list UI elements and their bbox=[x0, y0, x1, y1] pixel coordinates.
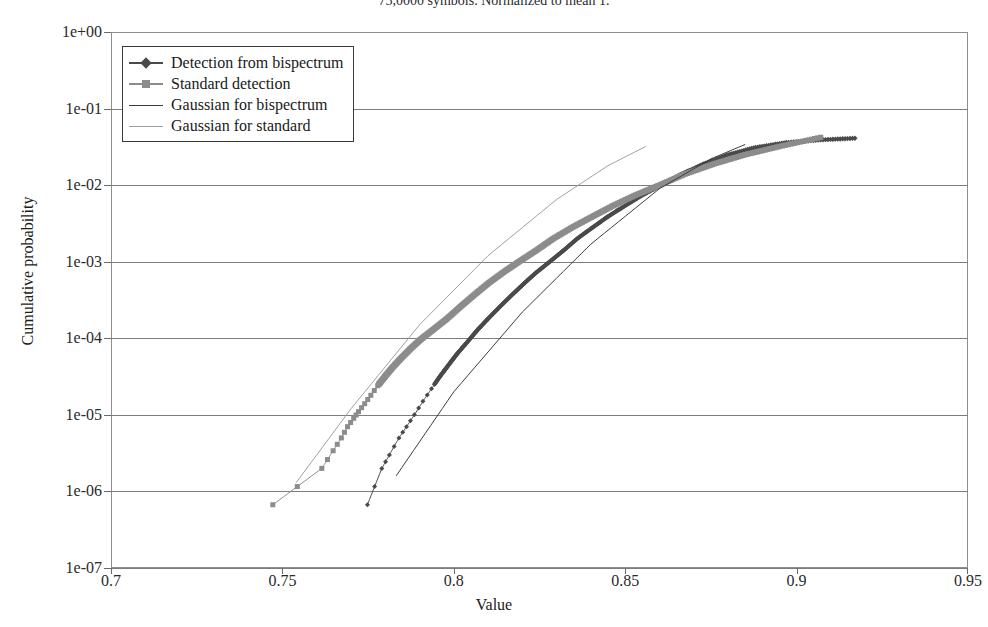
data-point-marker bbox=[319, 466, 324, 471]
legend: Detection from bispectrumStandard detect… bbox=[122, 46, 354, 142]
data-point-marker bbox=[325, 457, 330, 462]
data-point-marker bbox=[379, 466, 384, 471]
data-point-marker bbox=[295, 484, 300, 489]
legend-diamond-icon bbox=[129, 56, 163, 70]
y-tick-label: 1e-03 bbox=[32, 253, 102, 271]
x-tick-mark bbox=[454, 568, 455, 574]
legend-item[interactable]: Standard detection bbox=[129, 73, 343, 94]
x-tick-mark bbox=[282, 568, 283, 574]
y-tick-mark bbox=[104, 415, 111, 416]
data-point-marker bbox=[339, 435, 344, 440]
data-point-marker bbox=[416, 406, 421, 411]
data-point-marker bbox=[270, 502, 275, 507]
chart-figure: 75,0000 symbols. Normalized to mean 1. C… bbox=[0, 0, 988, 627]
data-point-marker bbox=[387, 452, 392, 457]
data-point-marker bbox=[342, 430, 347, 435]
series-2 bbox=[270, 135, 823, 508]
x-tick-label: 0.75 bbox=[242, 572, 322, 590]
series-connector bbox=[273, 137, 821, 504]
data-point-marker bbox=[383, 459, 388, 464]
data-point-marker bbox=[331, 448, 336, 453]
x-tick-label: 0.9 bbox=[757, 572, 837, 590]
y-tick-label: 1e-01 bbox=[32, 100, 102, 118]
y-tick-mark bbox=[104, 185, 111, 186]
y-tick-label: 1e-02 bbox=[32, 176, 102, 194]
y-tick-mark bbox=[104, 491, 111, 492]
data-point-marker bbox=[372, 484, 377, 489]
legend-none-icon bbox=[129, 98, 163, 112]
data-point-marker bbox=[818, 135, 823, 140]
y-tick-mark bbox=[104, 109, 111, 110]
legend-square-icon bbox=[129, 77, 163, 91]
data-point-marker bbox=[365, 502, 370, 507]
plot-area: Detection from bispectrumStandard detect… bbox=[111, 32, 968, 568]
legend-item-label: Detection from bispectrum bbox=[171, 54, 343, 72]
y-tick-label: 1e-06 bbox=[32, 482, 102, 500]
legend-item[interactable]: Gaussian for bispectrum bbox=[129, 94, 343, 115]
data-point-marker bbox=[392, 444, 397, 449]
legend-item[interactable]: Gaussian for standard bbox=[129, 115, 343, 136]
data-point-marker bbox=[335, 442, 340, 447]
series-3 bbox=[396, 144, 745, 475]
y-tick-mark bbox=[104, 568, 111, 569]
x-tick-label: 0.8 bbox=[414, 572, 494, 590]
y-tick-label: 1e-05 bbox=[32, 406, 102, 424]
y-axis-tick-labels: 1e+001e-011e-021e-031e-041e-051e-061e-07 bbox=[30, 0, 102, 627]
y-tick-mark bbox=[104, 32, 111, 33]
x-tick-label: 0.95 bbox=[928, 572, 988, 590]
x-tick-label: 0.7 bbox=[71, 572, 151, 590]
y-tick-label: 1e-04 bbox=[32, 329, 102, 347]
legend-item[interactable]: Detection from bispectrum bbox=[129, 52, 343, 73]
y-tick-mark bbox=[104, 338, 111, 339]
gaussian-reference-line bbox=[396, 144, 745, 475]
legend-none-icon bbox=[129, 119, 163, 133]
x-tick-mark bbox=[797, 568, 798, 574]
legend-item-label: Gaussian for standard bbox=[171, 117, 311, 135]
x-tick-mark bbox=[111, 568, 112, 574]
chart-title: 75,0000 symbols. Normalized to mean 1. bbox=[0, 0, 988, 9]
y-tick-mark bbox=[104, 262, 111, 263]
x-tick-label: 0.85 bbox=[585, 572, 665, 590]
legend-item-label: Gaussian for bispectrum bbox=[171, 96, 327, 114]
data-point-marker bbox=[372, 388, 377, 393]
x-tick-mark bbox=[967, 568, 968, 574]
x-axis-label: Value bbox=[0, 596, 988, 614]
series-4 bbox=[296, 146, 646, 482]
gaussian-reference-line bbox=[296, 146, 646, 482]
data-point-marker bbox=[368, 393, 373, 398]
y-tick-label: 1e+00 bbox=[32, 23, 102, 41]
grid-line bbox=[111, 568, 968, 569]
legend-item-label: Standard detection bbox=[171, 75, 291, 93]
x-tick-mark bbox=[625, 568, 626, 574]
